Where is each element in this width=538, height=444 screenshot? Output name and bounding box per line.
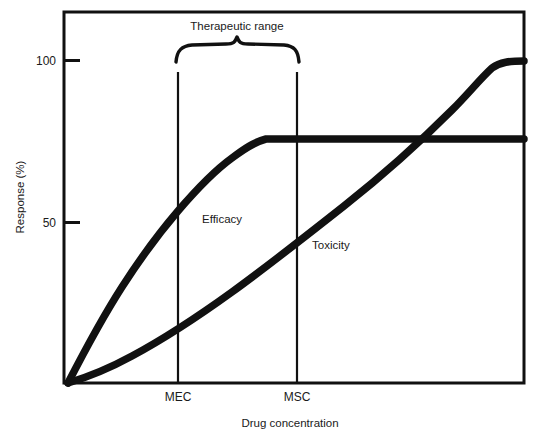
figure-root: 100 50 Response (%) MEC MSC Drug concent… xyxy=(0,0,538,444)
x-marker-label-msc: MSC xyxy=(284,390,311,404)
therapeutic-range-brace xyxy=(176,37,299,62)
y-tick-label-100: 100 xyxy=(36,54,56,68)
efficacy-series-label: Efficacy xyxy=(202,213,242,225)
x-marker-label-mec: MEC xyxy=(165,390,192,404)
plot-frame xyxy=(64,12,524,383)
therapeutic-range-label: Therapeutic range xyxy=(190,20,283,32)
y-axis-title: Response (%) xyxy=(14,160,26,233)
toxicity-series-label: Toxicity xyxy=(312,239,350,251)
y-tick-label-50: 50 xyxy=(43,216,57,230)
drug-response-chart: 100 50 Response (%) MEC MSC Drug concent… xyxy=(0,0,538,444)
x-axis-title: Drug concentration xyxy=(241,417,338,429)
